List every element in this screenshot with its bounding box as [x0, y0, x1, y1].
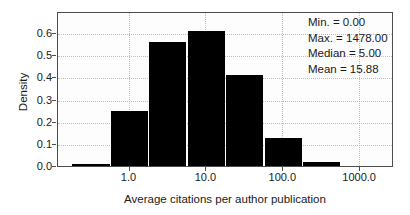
- y-tick-label: 0.1: [8, 139, 52, 150]
- histogram-bar: [265, 138, 302, 166]
- y-gridline: [58, 78, 392, 79]
- y-tick-label: 0.5: [8, 50, 52, 61]
- y-tick: [52, 166, 56, 167]
- y-tick: [52, 55, 56, 56]
- y-tick: [52, 144, 56, 145]
- y-tick: [52, 100, 56, 101]
- x-tick-label: 1.0: [121, 172, 136, 183]
- y-tick: [52, 77, 56, 78]
- x-axis-title: Average citations per author publication: [57, 193, 393, 205]
- x-tick-label: 1000.0: [342, 172, 376, 183]
- histogram-figure: Density 0.00.10.20.30.40.50.61.010.0100.…: [0, 0, 410, 215]
- histogram-bar: [72, 164, 109, 166]
- y-gridline: [58, 145, 392, 146]
- y-gridline: [58, 101, 392, 102]
- y-gridline: [58, 123, 392, 124]
- histogram-bar: [149, 42, 186, 166]
- histogram-bar: [226, 75, 263, 166]
- y-tick-label: 0.6: [8, 28, 52, 39]
- histogram-bar: [111, 111, 148, 166]
- x-tick-label: 100.0: [269, 172, 297, 183]
- stat-min: Min. = 0.00: [308, 15, 388, 31]
- y-tick: [52, 33, 56, 34]
- y-tick: [52, 122, 56, 123]
- histogram-bar: [188, 31, 225, 166]
- stat-mean: Mean = 15.88: [308, 62, 388, 78]
- histogram-bar: [303, 162, 340, 166]
- y-tick-label: 0.0: [8, 161, 52, 172]
- y-tick-label: 0.4: [8, 72, 52, 83]
- stat-median: Median = 5.00: [308, 46, 388, 62]
- stats-annotation: Min. = 0.00 Max. = 1478.00 Median = 5.00…: [308, 15, 388, 77]
- y-tick-label: 0.2: [8, 117, 52, 128]
- y-tick-label: 0.3: [8, 95, 52, 106]
- stat-max: Max. = 1478.00: [308, 31, 388, 47]
- x-tick-label: 10.0: [195, 172, 216, 183]
